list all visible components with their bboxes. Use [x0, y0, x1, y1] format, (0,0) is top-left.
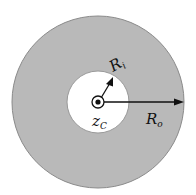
center-point-icon — [92, 96, 104, 108]
annulus-diagram: Ri Ro zC — [0, 0, 196, 195]
